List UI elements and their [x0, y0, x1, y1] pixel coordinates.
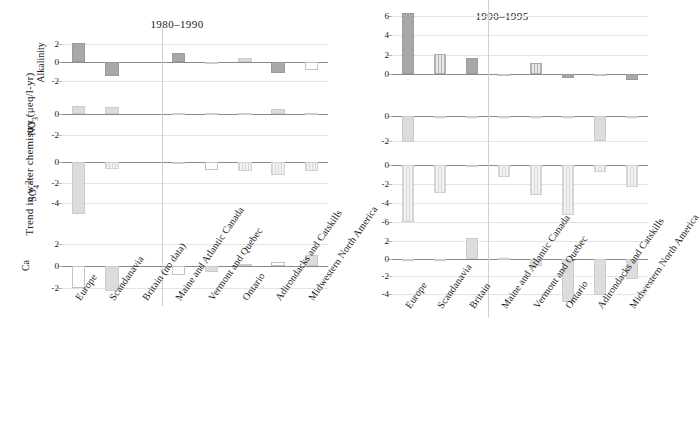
- bar: [626, 165, 639, 187]
- panel-no3: 0-2NO3–: [22, 100, 332, 146]
- zero-line: [62, 62, 328, 63]
- panel-label: SO42–: [24, 177, 40, 202]
- y-tick-label: -2: [52, 131, 60, 140]
- y-tick-label: 0: [385, 111, 390, 120]
- plot-area: 0-2-4-6: [392, 160, 648, 226]
- bar: [466, 238, 479, 258]
- panel-alkalinity: 20-2Alkalinity: [22, 38, 332, 90]
- bar: [402, 165, 415, 222]
- plot-area: 6420: [392, 8, 648, 86]
- gridline: [392, 35, 648, 36]
- plot-area: 20-2: [62, 38, 328, 90]
- bar: [562, 116, 575, 118]
- chart-1990-1995: 1990–1995 64200-20-2-4-620-2-4 EuropeSca…: [352, 0, 652, 437]
- y-tick-label: -2: [52, 76, 60, 85]
- bar: [402, 13, 415, 74]
- gridline: [62, 244, 328, 245]
- gridline: [392, 16, 648, 17]
- y-tick-label: 0: [55, 58, 60, 67]
- bar: [205, 62, 218, 64]
- gridline: [62, 44, 328, 45]
- bar: [594, 165, 607, 173]
- y-tick-label: -4: [382, 289, 390, 298]
- bar: [72, 106, 85, 113]
- y-tick-label: -2: [382, 272, 390, 281]
- bar: [205, 113, 218, 115]
- zero-line: [62, 114, 328, 115]
- y-tick-label: 2: [385, 237, 390, 246]
- bar: [434, 116, 447, 118]
- gridline: [62, 183, 328, 184]
- bar: [105, 107, 118, 113]
- bar: [271, 262, 284, 266]
- y-tick-label: -2: [52, 178, 60, 187]
- plot-area: 0-2: [62, 100, 328, 146]
- panel-label: Alkalinity: [35, 42, 46, 83]
- panel-label: Ca: [20, 260, 31, 271]
- y-tick-label: 0: [385, 254, 390, 263]
- bar: [172, 162, 185, 164]
- bar: [594, 116, 607, 141]
- bar: [271, 62, 284, 73]
- bar: [434, 259, 447, 261]
- y-tick-label: -2: [382, 136, 390, 145]
- bar: [205, 266, 218, 272]
- bar: [466, 165, 479, 167]
- bar: [305, 113, 318, 115]
- y-tick-label: 0: [385, 160, 390, 169]
- y-tick-label: 0: [55, 109, 60, 118]
- bar: [402, 259, 415, 261]
- bar: [72, 43, 85, 63]
- y-tick-label: 4: [385, 31, 390, 40]
- bar: [172, 266, 185, 275]
- bar: [238, 58, 251, 63]
- bar: [498, 74, 511, 76]
- y-tick-label: 0: [385, 70, 390, 79]
- panel-label: NO3–: [23, 113, 39, 136]
- zero-line: [392, 116, 648, 117]
- zero-line: [392, 165, 648, 166]
- bar: [105, 162, 118, 169]
- y-tick-label: 0: [55, 261, 60, 270]
- bar: [498, 165, 511, 177]
- bar: [466, 116, 479, 118]
- bar: [305, 62, 318, 69]
- gridline: [392, 222, 648, 223]
- bar: [72, 162, 85, 214]
- bar: [498, 258, 511, 260]
- panel-so42: 0-2-4SO42–: [22, 156, 332, 220]
- gridline: [62, 135, 328, 136]
- y-tick-label: -2: [52, 283, 60, 292]
- bar: [238, 162, 251, 171]
- y-tick-label: 6: [385, 11, 390, 20]
- zero-line: [62, 162, 328, 163]
- bar: [562, 165, 575, 216]
- zero-line: [392, 259, 648, 260]
- y-tick-label: -4: [52, 199, 60, 208]
- gridline: [62, 203, 328, 204]
- bar: [530, 116, 543, 118]
- gridline: [62, 81, 328, 82]
- group-divider: [488, 0, 489, 98]
- gridline: [392, 241, 648, 242]
- y-tick-label: 2: [385, 50, 390, 59]
- group-divider: [488, 222, 489, 318]
- bar: [530, 165, 543, 196]
- bar: [498, 116, 511, 118]
- bar: [466, 58, 479, 75]
- y-tick-label: 0: [55, 158, 60, 167]
- gridline: [392, 55, 648, 56]
- y-tick-label: 2: [55, 39, 60, 48]
- group-divider: [162, 144, 163, 232]
- y-tick-label: 2: [55, 240, 60, 249]
- panel-no3: 0-2: [352, 108, 652, 148]
- bar: [530, 63, 543, 75]
- y-tick-label: -4: [382, 199, 390, 208]
- bar: [626, 116, 639, 118]
- bar: [562, 74, 575, 78]
- bar: [105, 62, 118, 76]
- bar: [434, 54, 447, 74]
- bar: [205, 162, 218, 170]
- bar: [594, 74, 607, 76]
